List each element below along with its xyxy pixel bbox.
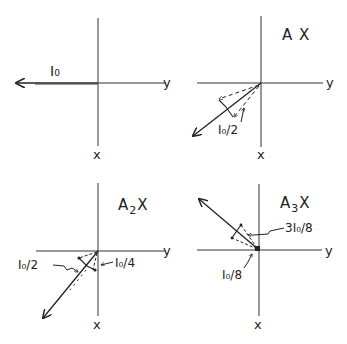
component-intensity-label-left: I₀/2 <box>18 259 38 271</box>
origin-mark <box>255 246 260 251</box>
title-tail: X <box>299 194 310 212</box>
tick-marks <box>70 270 86 290</box>
x-axis-label: x <box>257 148 265 161</box>
endpoint-dot <box>231 237 234 240</box>
x-axis-label: x <box>93 318 101 331</box>
title-main: A <box>282 26 293 44</box>
component-dashed-1 <box>219 85 259 99</box>
title-main: A <box>280 194 291 212</box>
panel-title: A X <box>282 28 310 43</box>
diagram-canvas <box>0 0 347 344</box>
x-axis-label: x <box>93 148 101 161</box>
component-intensity-label: I₀/2 <box>218 124 238 136</box>
component-intensity-label-top: 3I₀/8 <box>285 222 313 234</box>
endpoint-dot <box>240 224 243 227</box>
panel-title: A2X <box>118 198 149 216</box>
component-intensity-label-bottom: I₀/8 <box>222 269 242 281</box>
y-axis-label: y <box>163 76 171 89</box>
panel-1 <box>16 18 166 146</box>
component-intensity-label-right: I₀/4 <box>115 257 135 269</box>
incident-intensity-label: I₀ <box>50 64 60 78</box>
label-pointer <box>241 108 244 122</box>
y-axis-label: y <box>326 76 334 89</box>
panel-title: A3X <box>280 196 311 214</box>
component-dashed-2 <box>232 238 257 249</box>
title-main: A <box>118 196 129 214</box>
figure: I₀ y x A X I₀/2 y x A2X I₀/2 I₀/4 y x A3… <box>0 0 347 344</box>
y-axis-label: y <box>325 244 333 257</box>
resultant-vector <box>43 251 98 318</box>
endpoint-dot <box>93 268 96 271</box>
projection-bracket <box>232 225 241 238</box>
title-tail: X <box>137 196 148 214</box>
label-pointer-left <box>53 265 78 272</box>
y-axis-label: y <box>163 244 171 257</box>
label-pointer-right <box>101 262 113 265</box>
title-tail: X <box>299 26 310 44</box>
vector-shading <box>35 82 98 85</box>
label-pointer-bottom <box>244 254 252 268</box>
x-axis-label: x <box>254 318 262 331</box>
resultant-vector <box>199 199 259 250</box>
label-pointer-top <box>248 228 284 235</box>
endpoint-dot <box>77 256 80 259</box>
